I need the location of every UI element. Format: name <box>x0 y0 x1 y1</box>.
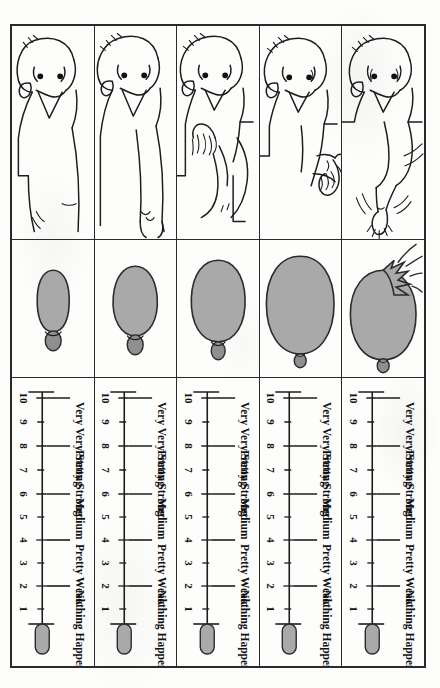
scale-labels: Very Very Strong Pretty Strong Medium Pr… <box>155 402 168 666</box>
scale-labels: Very Very Strong Pretty Strong Medium Pr… <box>238 402 251 666</box>
table-row: Very Very Strong Pretty Strong Medium Pr… <box>259 26 342 666</box>
rating-scale-cell-1[interactable]: Very Very Strong Pretty Strong Medium Pr… <box>342 378 424 666</box>
scale-anchor-label-medium: Medium <box>239 498 251 540</box>
scale-number-4: 4 <box>183 537 195 543</box>
scale-number-3: 3 <box>348 560 360 566</box>
scale-numbers: 10 9 8 7 6 5 4 3 2 1 <box>348 393 360 612</box>
scale-number-9: 9 <box>266 419 278 425</box>
rating-scale-cell-5[interactable]: Very Very Strong Pretty Strong Medium Pr… <box>12 378 94 666</box>
scale-number-5: 5 <box>266 514 278 520</box>
scale-number-7: 7 <box>348 467 360 473</box>
scale-numbers: 10 9 8 7 6 5 4 3 2 1 <box>266 393 278 612</box>
balloon-bursting-icon <box>342 240 424 377</box>
rating-scale-cell-4[interactable]: Very Very Strong Pretty Strong Medium Pr… <box>95 378 177 666</box>
scale-anchor-ticks <box>46 398 70 586</box>
scale-number-8: 8 <box>266 443 278 449</box>
effort-rating-scale[interactable]: Very Very Strong Pretty Strong Medium Pr… <box>177 378 259 666</box>
scale-number-6: 6 <box>101 491 113 497</box>
scale-minor-ticks <box>284 398 294 609</box>
scale-minor-ticks <box>36 398 46 609</box>
scale-number-6: 6 <box>183 491 195 497</box>
scale-number-9: 9 <box>348 419 360 425</box>
scale-number-5: 5 <box>18 514 30 520</box>
scale-number-7: 7 <box>18 467 30 473</box>
scale-number-10: 10 <box>183 393 195 405</box>
balloon-illustration-cell-1 <box>342 240 424 378</box>
scale-number-5: 5 <box>183 514 195 520</box>
balloon-smallest-icon <box>12 240 94 377</box>
scale-anchor-ticks <box>376 398 400 586</box>
balloon-illustration-cell-2 <box>260 240 342 378</box>
scale-number-10: 10 <box>101 393 113 405</box>
scale-number-1: 1 <box>266 606 278 611</box>
scale-labels: Very Very Strong Pretty Strong Medium Pr… <box>321 402 334 666</box>
scale-anchor-ticks <box>294 398 318 586</box>
effort-rating-scale[interactable]: Very Very Strong Pretty Strong Medium Pr… <box>260 378 342 666</box>
scale-number-4: 4 <box>348 537 360 543</box>
scale-number-8: 8 <box>18 443 30 449</box>
scale-anchor-ticks <box>211 398 235 586</box>
scale-anchor-label-nothing-happening: Nothing Happening <box>403 590 416 666</box>
scale-numbers: 10 9 8 7 6 5 4 3 2 1 <box>183 393 195 612</box>
scale-number-9: 9 <box>18 419 30 425</box>
scale-mouthpiece-icon <box>35 624 49 654</box>
scale-anchor-ticks <box>128 398 152 586</box>
scale-anchor-label-medium: Medium <box>156 498 168 540</box>
scale-anchor-label-medium: Medium <box>74 498 86 540</box>
balloon-small-icon <box>95 240 177 377</box>
scale-minor-ticks <box>119 398 129 609</box>
scale-labels: Very Very Strong Pretty Strong Medium Pr… <box>403 402 416 666</box>
rating-scale-cell-3[interactable]: Very Very Strong Pretty Strong Medium Pr… <box>177 378 259 666</box>
scale-anchor-label-medium: Medium <box>322 498 334 540</box>
scale-anchor-label-nothing-happening: Nothing Happening <box>155 590 168 666</box>
effort-rating-scale[interactable]: Very Very Strong Pretty Strong Medium Pr… <box>342 378 424 666</box>
person-figure-icon <box>260 26 342 239</box>
scale-anchor-label-nothing-happening: Nothing Happening <box>321 590 334 666</box>
scale-mouthpiece-icon <box>283 624 297 654</box>
scale-number-4: 4 <box>101 537 113 543</box>
effort-rating-scale[interactable]: Very Very Strong Pretty Strong Medium Pr… <box>95 378 177 666</box>
person-illustration-cell-2 <box>260 26 342 240</box>
scale-number-1: 1 <box>348 606 360 611</box>
scale-minor-ticks <box>366 398 376 609</box>
scale-anchor-label-nothing-happening: Nothing Happening <box>73 590 86 666</box>
scale-number-6: 6 <box>18 491 30 497</box>
scale-number-1: 1 <box>101 606 113 611</box>
scale-number-1: 1 <box>18 606 30 611</box>
person-figure-icon <box>95 26 177 239</box>
table-row: Very Very Strong Pretty Strong Medium Pr… <box>176 26 259 666</box>
person-figure-icon <box>177 26 259 239</box>
scale-minor-ticks <box>201 398 211 609</box>
person-figure-icon <box>342 26 424 239</box>
scale-number-4: 4 <box>18 537 30 543</box>
person-illustration-cell-1 <box>342 26 424 240</box>
scale-number-3: 3 <box>266 560 278 566</box>
table-row: Very Very Strong Pretty Strong Medium Pr… <box>341 26 424 666</box>
effort-rating-scale[interactable]: Very Very Strong Pretty Strong Medium Pr… <box>12 378 94 666</box>
balloon-illustration-cell-4 <box>95 240 177 378</box>
scale-number-7: 7 <box>101 467 113 473</box>
scale-number-8: 8 <box>183 443 195 449</box>
table-row: Very Very Strong Pretty Strong Medium Pr… <box>12 26 94 666</box>
scale-number-2: 2 <box>101 583 113 589</box>
person-illustration-cell-3 <box>177 26 259 240</box>
scale-number-10: 10 <box>18 393 30 405</box>
scale-number-7: 7 <box>183 467 195 473</box>
scale-mouthpiece-icon <box>200 624 214 654</box>
scale-number-10: 10 <box>348 393 360 405</box>
scale-anchor-label-nothing-happening: Nothing Happening <box>238 590 251 666</box>
rotated-figure-container: Very Very Strong Pretty Strong Medium Pr… <box>0 0 440 688</box>
scale-number-8: 8 <box>101 443 113 449</box>
balloon-medium-icon <box>177 240 259 377</box>
scale-number-3: 3 <box>18 560 30 566</box>
rating-scale-cell-2[interactable]: Very Very Strong Pretty Strong Medium Pr… <box>260 378 342 666</box>
scale-number-10: 10 <box>266 393 278 405</box>
scale-number-4: 4 <box>266 537 278 543</box>
scale-labels: Very Very Strong Pretty Strong Medium Pr… <box>73 402 86 666</box>
scale-number-7: 7 <box>266 467 278 473</box>
scale-number-9: 9 <box>101 419 113 425</box>
scale-mouthpiece-icon <box>118 624 132 654</box>
person-figure-icon <box>12 26 94 239</box>
scale-number-2: 2 <box>348 583 360 589</box>
scale-number-3: 3 <box>101 560 113 566</box>
